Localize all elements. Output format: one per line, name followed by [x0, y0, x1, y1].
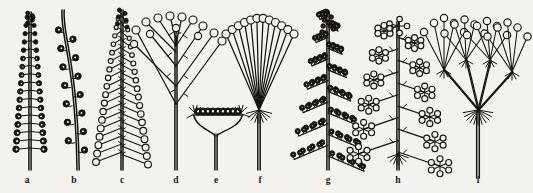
- raceme-floret: [111, 42, 115, 46]
- raceme-floret: [138, 111, 144, 117]
- compound-panicle-floret: [358, 98, 364, 104]
- compound-panicle-floret: [423, 68, 429, 74]
- compound-panicle-floret: [373, 105, 379, 111]
- spike-apex-floret: [26, 16, 30, 20]
- raceme-floret: [143, 153, 150, 160]
- raceme-apex-floret: [115, 22, 119, 26]
- compound-panicle-floret: [405, 43, 411, 49]
- compound-panicle-floret: [378, 74, 384, 80]
- panicle-floret-center: [336, 25, 338, 27]
- raceme-floret: [127, 36, 131, 40]
- compound-panicle-floret: [440, 142, 446, 148]
- compound-panicle-floret: [366, 95, 372, 101]
- curved-spike-floret-center: [78, 93, 81, 96]
- panicle-floret-center: [330, 109, 332, 111]
- panicle-floret-center: [311, 125, 313, 127]
- compound-umbel-floret: [430, 19, 437, 26]
- compound-panicle-floret: [382, 55, 388, 61]
- panicle-floret-center: [314, 102, 316, 104]
- compound-panicle-floret: [428, 167, 434, 173]
- spike-floret-center: [17, 115, 20, 118]
- compound-panicle-floret: [376, 47, 382, 53]
- compound-panicle-floret: [356, 158, 362, 164]
- compound-panicle-floret: [424, 135, 430, 141]
- raceme-floret: [100, 108, 106, 114]
- panicle-floret-center: [322, 77, 324, 79]
- raceme-floret: [131, 61, 136, 66]
- compound-panicle-floret: [381, 33, 387, 39]
- caption-label-f: f: [252, 175, 268, 186]
- compound-panicle-floret: [427, 107, 433, 113]
- corymb-floret: [132, 26, 140, 34]
- spike-floret-center: [19, 90, 22, 93]
- raceme-floret: [105, 75, 110, 80]
- panicle-apex-floret-center: [323, 19, 325, 21]
- compound-panicle-floret: [440, 135, 446, 141]
- compound-panicle-floret: [427, 121, 433, 127]
- compound-umbel-floret: [461, 16, 468, 23]
- panicle-floret-center: [328, 43, 330, 45]
- spike-floret-center: [38, 90, 41, 93]
- panicle-floret-center: [345, 115, 347, 117]
- compound-panicle-floret: [446, 167, 452, 173]
- curved-spike-floret-center: [67, 139, 70, 142]
- curved-spike-floret-center: [74, 56, 77, 59]
- compound-umbel-floret: [494, 24, 501, 31]
- panicle-floret-center: [353, 118, 355, 120]
- raceme-floret: [110, 50, 115, 55]
- compound-panicle-floret: [424, 142, 430, 148]
- compound-umbel-floret: [463, 31, 470, 38]
- raceme-floret: [103, 92, 109, 98]
- compound-panicle-floret: [369, 55, 375, 61]
- panicle-floret-center: [341, 157, 343, 159]
- panicle-floret-center: [348, 95, 350, 97]
- compound-panicle-floret: [397, 16, 403, 22]
- compound-panicle-floret: [423, 62, 429, 68]
- compound-panicle-floret: [364, 74, 370, 80]
- spike-floret-center: [20, 82, 23, 85]
- panicle-apex-floret-center: [330, 16, 332, 18]
- spike-floret-center: [16, 140, 19, 143]
- caption-label-d: d: [168, 175, 184, 186]
- panicle-floret-center: [329, 87, 331, 89]
- compound-panicle-floret: [412, 46, 418, 52]
- spike-floret: [33, 40, 37, 44]
- caption-label-g: g: [320, 175, 336, 186]
- compound-umbel-floret: [420, 28, 427, 35]
- raceme-floret: [142, 144, 149, 151]
- compound-panicle-floret: [366, 108, 372, 114]
- corymb-floret: [154, 14, 162, 22]
- panicle-floret-center: [320, 121, 322, 123]
- compound-panicle-floret: [412, 35, 418, 41]
- panicle-floret-center: [337, 112, 339, 114]
- raceme-floret: [133, 78, 138, 83]
- spike-apex-floret: [31, 14, 35, 18]
- raceme-floret: [96, 133, 103, 140]
- panicle-floret-center: [348, 138, 350, 140]
- compound-umbel-floret: [514, 24, 521, 31]
- compound-panicle-floret: [356, 144, 362, 150]
- panicle-floret-center: [309, 147, 311, 149]
- raceme-apex-floret: [124, 18, 128, 22]
- panicle-floret-center: [362, 165, 364, 167]
- panicle-floret-center: [332, 45, 334, 47]
- panicle-apex-floret-center: [322, 25, 324, 27]
- spike-floret-center: [19, 98, 22, 101]
- panicle-floret-center: [352, 161, 354, 163]
- compound-panicle-floret: [375, 30, 381, 36]
- curved-spike-floret-center: [81, 130, 84, 133]
- inflorescence-diagram-canvas: [0, 0, 533, 193]
- panicle-floret-center: [339, 134, 341, 136]
- caption-label-i: i: [470, 175, 486, 186]
- compound-panicle-floret: [373, 98, 379, 104]
- compound-umbel-floret: [451, 21, 458, 28]
- panicle-floret-center: [303, 128, 305, 130]
- compound-panicle-floret: [419, 117, 425, 123]
- compound-panicle-floret: [417, 59, 423, 65]
- panicle-floret-center: [335, 89, 337, 91]
- compound-panicle-floret: [364, 147, 370, 153]
- compound-panicle-floret: [376, 58, 382, 64]
- spike-floret-center: [41, 140, 44, 143]
- compound-panicle-floret: [358, 105, 364, 111]
- raceme-floret: [132, 69, 137, 74]
